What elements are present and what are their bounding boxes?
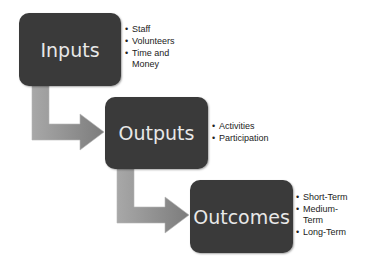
inputs-bullet-list: Staff Volunteers Time and Money — [125, 24, 185, 71]
outputs-box: Outputs — [105, 97, 208, 169]
inputs-box: Inputs — [19, 13, 121, 86]
bullet-item: Long-Term — [296, 227, 358, 238]
bullet-item: Medium-Term — [296, 204, 345, 226]
outputs-bullet-list: Activities Participation — [212, 121, 292, 145]
outcomes-label: Outcomes — [193, 206, 290, 228]
bullet-item: Activities — [212, 121, 292, 132]
bent-arrow-icon — [28, 84, 108, 152]
outcomes-bullet-list: Short-Term Medium-Term Long-Term — [296, 192, 358, 239]
bullet-item: Short-Term — [296, 192, 358, 203]
outputs-label: Outputs — [119, 122, 195, 144]
outcomes-box: Outcomes — [190, 180, 293, 253]
bullet-item: Staff — [125, 24, 185, 35]
inputs-label: Inputs — [40, 39, 99, 61]
bullet-item: Time and Money — [125, 48, 176, 70]
bent-arrow-icon — [113, 167, 193, 235]
bullet-item: Participation — [212, 133, 292, 144]
bullet-item: Volunteers — [125, 36, 185, 47]
